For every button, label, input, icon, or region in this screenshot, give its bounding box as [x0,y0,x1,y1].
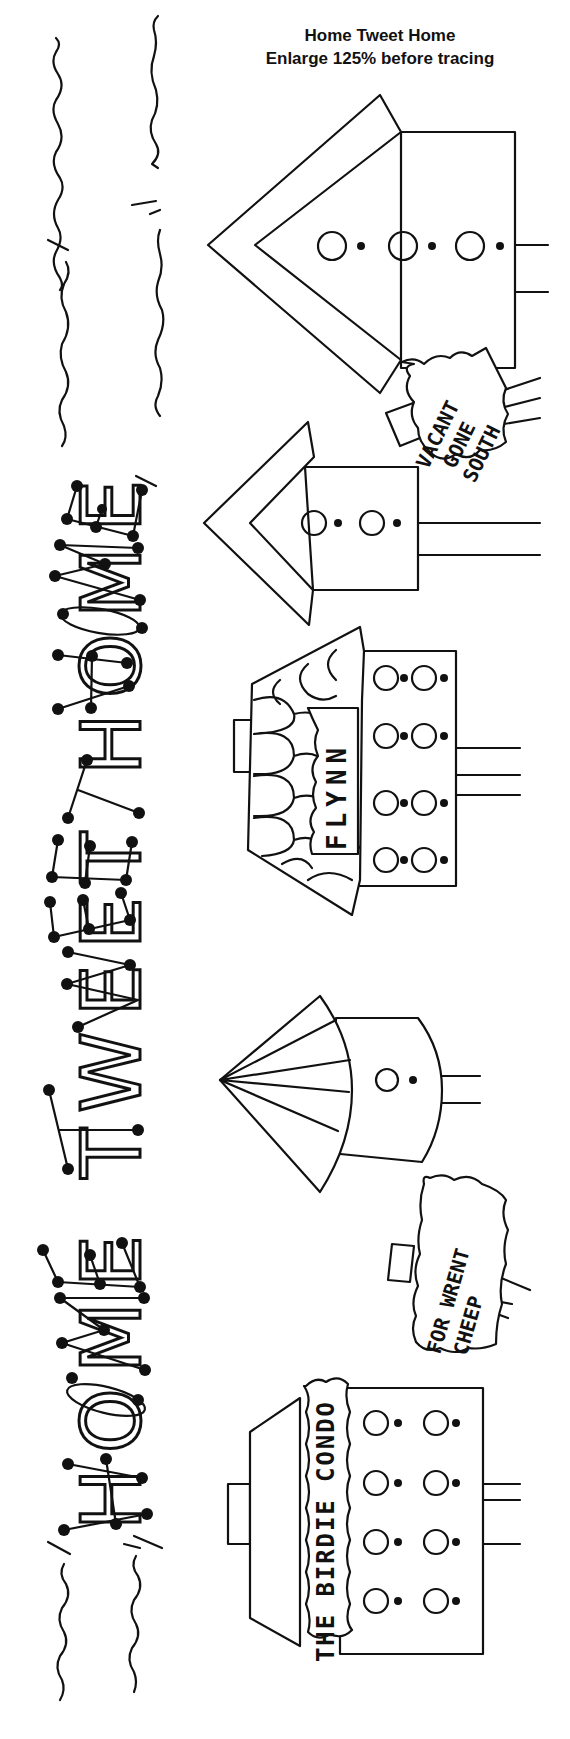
house-1 [208,95,548,393]
house-3: FLYNN [234,627,520,915]
line-art: HOME TWEET HOME [0,0,570,1739]
coloring-page: Home Tweet Home Enlarge 125% before trac… [0,0,570,1739]
condo-text: THE BIRDIE CONDO [312,1402,340,1662]
forwrent-sign: FOR WRENT CHEEP [388,1175,530,1363]
house-5: THE BIRDIE CONDO [228,1378,520,1662]
flynn-text: FLYNN [322,742,352,850]
house-4 [220,996,480,1192]
house-5-perch-block [228,1484,250,1544]
